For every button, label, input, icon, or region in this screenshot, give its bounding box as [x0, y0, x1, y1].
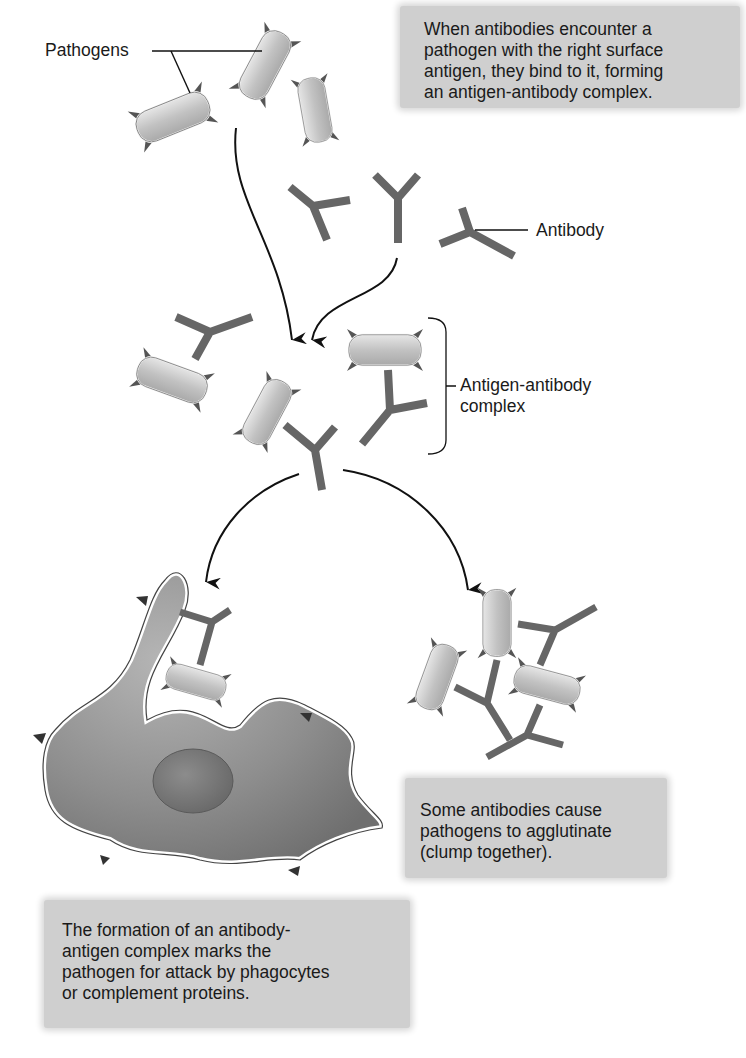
callout-line: (clump together).	[420, 842, 667, 863]
complex-label-line1: Antigen-antibody	[460, 375, 591, 396]
callout-line: pathogen for attack by phagocytes	[62, 962, 410, 983]
antigen-antibody-complex	[129, 317, 427, 490]
complex-label: Antigen-antibody complex	[460, 375, 591, 417]
callout-line: an antigen-antibody complex.	[424, 82, 740, 103]
complex-label-line2: complex	[460, 396, 591, 417]
arrow-icon	[235, 128, 397, 340]
antibody-diagram: Pathogens Antibody Antigen-antibody comp…	[0, 0, 746, 1058]
callout-line: Some antibodies cause	[420, 800, 667, 821]
callout-antibody-binding: When antibodies encounter a pathogen wit…	[400, 6, 740, 108]
callout-line: antigen complex marks the	[62, 941, 410, 962]
callout-phagocyte: The formation of an antibody- antigen co…	[44, 900, 410, 1028]
pathogen-icon	[128, 22, 340, 153]
callout-line: or complement proteins.	[62, 983, 410, 1004]
callout-line: pathogens to agglutinate	[420, 821, 667, 842]
callout-line: The formation of an antibody-	[62, 920, 410, 941]
antibody-label: Antibody	[536, 220, 604, 241]
arrow-icon	[206, 470, 468, 590]
pathogens-label: Pathogens	[45, 40, 129, 61]
phagocyte-icon	[33, 573, 382, 876]
complex-bracket	[428, 318, 456, 454]
antibody-icon	[290, 175, 514, 256]
agglutination-cluster	[407, 588, 596, 757]
callout-line: When antibodies encounter a	[424, 19, 740, 40]
callout-line: antigen, they bind to it, forming	[424, 61, 740, 82]
callout-agglutination: Some antibodies cause pathogens to agglu…	[405, 778, 667, 878]
callout-line: pathogen with the right surface	[424, 40, 740, 61]
